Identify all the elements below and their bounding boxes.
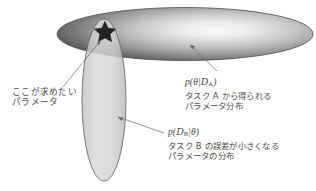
task-b-line1: タスク B の誤差が小さくなる	[168, 141, 279, 151]
task-b-likelihood-ellipse	[82, 19, 126, 181]
target-parameter-line1: ここが求めたい	[12, 87, 77, 97]
task-a-formula-close: )	[213, 77, 216, 87]
task-b-line2: パラメータの分布	[168, 151, 279, 161]
task-b-formula-close: )	[196, 127, 199, 137]
task-b-label: p(DB|θ) タスク B の誤差が小さくなる パラメータの分布	[168, 126, 279, 161]
task-a-formula: p(θ|DA)	[185, 76, 271, 89]
task-b-formula-dataset: D	[176, 126, 184, 137]
diagram-canvas: ここが求めたい パラメータ p(θ|DA) タスク A から得られる パラメータ…	[0, 0, 316, 191]
task-a-label: p(θ|DA) タスク A から得られる パラメータ分布	[185, 76, 271, 111]
task-a-line2: パラメータ分布	[185, 101, 271, 111]
target-parameter-line2: パラメータ	[12, 97, 77, 107]
task-a-line1: タスク A から得られる	[185, 91, 271, 101]
task-a-formula-sub: A	[208, 80, 213, 87]
target-parameter-label: ここが求めたい パラメータ	[12, 87, 77, 108]
task-b-formula-sub: B	[184, 130, 188, 137]
task-b-formula: p(DB|θ)	[168, 126, 279, 139]
